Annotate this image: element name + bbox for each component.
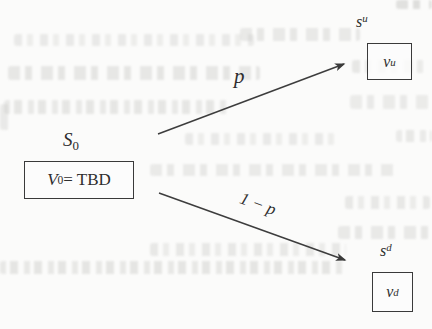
root-state-base: S — [63, 129, 73, 150]
root-value-base: V — [47, 170, 57, 190]
root-state-label: S0 — [63, 130, 79, 153]
up-state-label: su — [356, 13, 368, 30]
root-state-subscript: 0 — [73, 138, 79, 153]
down-value-superscript: d — [393, 286, 398, 298]
up-edge-probability-label: p — [234, 66, 245, 87]
down-value-box: vd — [372, 272, 413, 312]
root-value-suffix: = TBD — [63, 170, 111, 190]
down-state-label: sd — [380, 242, 392, 259]
up-value-superscript: u — [390, 56, 395, 68]
up-edge-arrow — [158, 64, 344, 134]
up-value-base: v — [383, 53, 390, 71]
down-state-superscript: d — [386, 241, 391, 253]
down-value-base: v — [386, 283, 393, 301]
scanned-book-figure: p 1 − p S0 V0 = TBD su vu sd vd — [0, 0, 432, 329]
root-value-box: V0 = TBD — [24, 161, 134, 199]
up-state-superscript: u — [362, 12, 367, 24]
up-value-box: vu — [367, 43, 412, 80]
